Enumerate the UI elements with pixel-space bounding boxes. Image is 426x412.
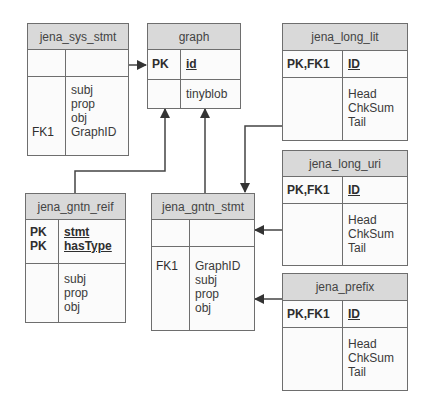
- field: obj: [71, 111, 128, 125]
- table-header: jena_gntn_reif: [26, 194, 125, 220]
- field: Tail: [348, 365, 407, 379]
- pk-field: hasType: [64, 239, 125, 253]
- rel-long-lit-gntn-stmt: [245, 126, 282, 192]
- pk-keys: PK: [148, 50, 181, 79]
- field: obj: [64, 300, 125, 314]
- table-header: jena_long_lit: [283, 24, 407, 51]
- field-keys: FK1: [152, 247, 190, 330]
- fields: subj prop obj GraphID: [66, 77, 128, 155]
- field-keys: FK1: [28, 77, 66, 155]
- fields: Head ChkSum Tail: [343, 78, 407, 140]
- field: ChkSum: [348, 227, 407, 241]
- fields: subj prop obj: [59, 264, 125, 322]
- pk-field: ID: [348, 183, 407, 197]
- table-header: jena_long_uri: [283, 151, 407, 177]
- fields: Head ChkSum Tail: [343, 204, 407, 265]
- field: prop: [64, 286, 125, 300]
- field-keys: [148, 80, 181, 108]
- table-header: jena_sys_stmt: [28, 24, 128, 50]
- table-jena-gntn-reif[interactable]: jena_gntn_reif PK PK stmt hasType subj p…: [25, 193, 126, 323]
- field: ChkSum: [348, 101, 407, 115]
- table-jena-long-lit[interactable]: jena_long_lit PK,FK1 ID Head ChkSum Tail: [282, 23, 408, 141]
- pk-keys: [152, 220, 190, 246]
- table-graph[interactable]: graph PK id tinyblob: [147, 23, 241, 109]
- field-keys: [283, 328, 343, 390]
- pk-keys: PK,FK1: [283, 177, 343, 203]
- table-header: jena_gntn_stmt: [152, 194, 254, 220]
- pk-field: id: [186, 57, 240, 71]
- field: prop: [195, 287, 254, 301]
- pk-field: ID: [348, 307, 407, 321]
- table-jena-prefix[interactable]: jena_prefix PK,FK1 ID Head ChkSum Tail: [282, 273, 408, 391]
- table-jena-gntn-stmt[interactable]: jena_gntn_stmt FK1 GraphID subj prop obj: [151, 193, 255, 331]
- fields: Head ChkSum Tail: [343, 328, 407, 390]
- field: Head: [348, 87, 407, 101]
- field-keys: [283, 204, 343, 265]
- pk-keys: PK,FK1: [283, 51, 343, 77]
- field: Head: [348, 213, 407, 227]
- field: Tail: [348, 241, 407, 255]
- field-keys: [26, 264, 59, 322]
- table-header: graph: [148, 24, 240, 50]
- field: ChkSum: [348, 351, 407, 365]
- field-keys: [283, 78, 343, 140]
- field: prop: [71, 97, 128, 111]
- table-jena-long-uri[interactable]: jena_long_uri PK,FK1 ID Head ChkSum Tail: [282, 150, 408, 266]
- table-header: jena_prefix: [283, 274, 407, 301]
- field: Head: [348, 337, 407, 351]
- field: GraphID: [195, 259, 254, 273]
- field: tinyblob: [186, 87, 240, 101]
- pk-keys: [28, 50, 66, 76]
- field: GraphID: [71, 125, 128, 139]
- field: subj: [195, 273, 254, 287]
- field: subj: [71, 83, 128, 97]
- table-jena-sys-stmt[interactable]: jena_sys_stmt FK1 subj prop obj GraphID: [27, 23, 129, 156]
- pk-keys: PK,FK1: [283, 301, 343, 327]
- fields: GraphID subj prop obj: [190, 247, 254, 330]
- pk-field: stmt: [64, 225, 125, 239]
- field: Tail: [348, 115, 407, 129]
- field: obj: [195, 301, 254, 315]
- pk-field: ID: [348, 57, 407, 71]
- pk-keys: PK PK: [26, 220, 59, 263]
- field: subj: [64, 272, 125, 286]
